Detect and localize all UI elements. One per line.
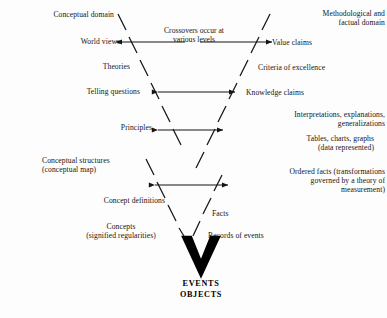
label-ordered-facts: Ordered facts (transformations governed … xyxy=(228,167,385,195)
gowin-v-diagram: Conceptual domain World views Theories T… xyxy=(0,0,387,318)
label-telling-questions: Telling questions xyxy=(30,87,140,96)
label-methodological-factual-domain: Methodological and factual domain xyxy=(272,9,385,27)
label-facts: Facts xyxy=(212,209,312,218)
v-apex xyxy=(183,237,219,276)
label-concept-definitions: Concept definitions xyxy=(55,196,165,205)
label-conceptual-domain: Conceptual domain xyxy=(4,10,114,19)
label-criteria-of-excellence: Criteria of excellence xyxy=(258,63,383,72)
label-tables-charts-graphs: Tables, charts, graphs (data represented… xyxy=(240,134,374,152)
label-knowledge-claims: Knowledge claims xyxy=(246,88,381,97)
label-interpretations-explanations: Interpretations, explanations, generaliz… xyxy=(240,110,385,128)
label-concepts-signified-regularities: Concepts (signified regularities) xyxy=(62,222,180,240)
label-conceptual-structures: Conceptual structures (conceptual map) xyxy=(42,156,152,174)
label-theories: Theories xyxy=(20,62,130,71)
label-value-claims: Value claims xyxy=(272,38,385,47)
label-records-of-events: Records of events xyxy=(208,231,328,240)
crossover-note: Crossovers occur at various levels xyxy=(130,26,258,45)
label-world-views: World views xyxy=(10,37,120,46)
v-left-arm-lower xyxy=(173,129,181,145)
apex-events-objects-label: EVENTS OBJECTS xyxy=(151,279,251,300)
label-principles: Principles xyxy=(42,123,152,132)
